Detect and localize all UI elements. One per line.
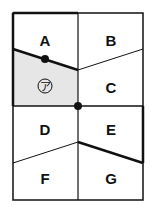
region-label-b: B bbox=[106, 32, 117, 49]
region-label-f: F bbox=[40, 170, 49, 187]
shaded-label: ア bbox=[40, 81, 51, 93]
region-label-e: E bbox=[106, 121, 116, 138]
partition-diagram: ア A B C D E F G bbox=[0, 0, 153, 214]
dot-center bbox=[74, 102, 82, 110]
dot-top bbox=[41, 55, 49, 63]
df-boundary bbox=[13, 142, 78, 163]
region-label-a: A bbox=[40, 32, 51, 49]
region-label-d: D bbox=[40, 121, 51, 138]
eg-boundary bbox=[78, 142, 143, 163]
region-label-g: G bbox=[105, 170, 117, 187]
bc-boundary bbox=[78, 49, 143, 70]
region-label-c: C bbox=[106, 79, 117, 96]
